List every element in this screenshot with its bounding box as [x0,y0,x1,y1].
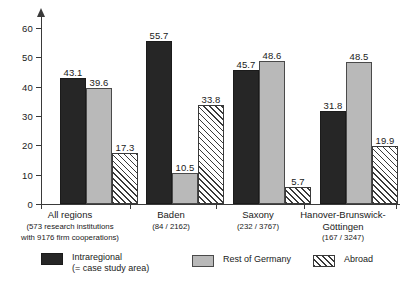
y-axis-tick-label: 10 [22,169,33,180]
x-axis-line [41,204,400,205]
bar: 43.1 [60,78,86,204]
bar: 55.7 [146,41,172,204]
y-axis-tick [36,57,41,58]
bar-value-label: 33.8 [202,94,221,105]
y-axis-tick-label: 60 [22,23,33,34]
bar-value-label: 43.1 [64,67,83,78]
y-axis-tick-label: 40 [22,81,33,92]
legend-swatch-intraregional-icon [41,253,63,265]
bar: 5.7 [285,187,311,204]
bar-group: 43.139.617.3 [60,0,138,204]
bar-group: 55.710.533.8 [146,0,224,204]
bar: 45.7 [233,70,259,204]
y-axis-tick-label: 30 [22,111,33,122]
bar-value-label: 48.5 [350,51,369,62]
bar-group: 31.848.519.9 [320,0,398,204]
y-axis-tick [36,28,41,29]
bar-value-label: 19.9 [376,135,395,146]
bar-value-label: 17.3 [116,142,135,153]
chart-legend: Intraregional (= case study area) Rest o… [0,252,405,286]
bar: 48.5 [346,62,372,204]
legend-item-abroad: Abroad [313,254,373,267]
bar: 19.9 [372,146,398,204]
bar-value-label: 39.6 [90,77,109,88]
y-axis-tick-label: 20 [22,140,33,151]
y-axis-arrow-icon [37,8,45,17]
legend-label-intraregional: Intraregional (= case study area) [72,252,149,273]
y-axis-tick [36,116,41,117]
y-axis-tick-label: 50 [22,52,33,63]
bar-value-label: 10.5 [176,162,195,173]
bar: 31.8 [320,111,346,204]
bar-value-label: 45.7 [237,59,256,70]
legend-label-rest-of-germany: Rest of Germany [223,254,291,265]
legend-swatch-rest-of-germany-icon [192,255,214,267]
bar: 33.8 [198,105,224,204]
y-axis-line [41,16,42,204]
bar: 10.5 [172,173,198,204]
y-axis-tick [36,87,41,88]
bar-chart: 0102030405060 43.139.617.355.710.533.845… [0,0,405,290]
bar: 39.6 [86,88,112,204]
bar: 48.6 [259,61,285,204]
y-axis-tick [36,145,41,146]
y-axis-tick [36,175,41,176]
bar-value-label: 31.8 [324,100,343,111]
legend-label-abroad: Abroad [344,254,373,265]
legend-swatch-abroad-icon [313,255,335,267]
category-label-hanover-brunswick-goettingen: Hanover-Brunswick- Göttingen (167 / 3247… [281,209,405,244]
bar-value-label: 55.7 [150,30,169,41]
bar-group: 45.748.65.7 [233,0,311,204]
bar-value-label: 5.7 [291,176,305,187]
bar-value-label: 48.6 [263,50,282,61]
bar: 17.3 [112,153,138,204]
legend-item-intraregional: Intraregional (= case study area) [41,252,149,273]
y-axis-tick-label: 0 [28,199,33,210]
legend-item-rest-of-germany: Rest of Germany [192,254,291,267]
